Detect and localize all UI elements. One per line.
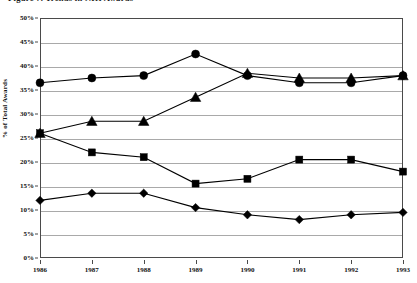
y-tick-mark xyxy=(35,258,38,259)
y-tick-mark xyxy=(35,90,38,91)
y-tick-mark xyxy=(35,234,38,235)
y-tick-label: 35% xyxy=(20,86,34,94)
y-tick-mark xyxy=(35,66,38,67)
y-tick-mark xyxy=(35,162,38,163)
y-tick-label: 10% xyxy=(20,206,34,214)
x-tick-mark xyxy=(299,260,300,264)
triangle-marker xyxy=(190,92,201,101)
circle-marker xyxy=(88,74,96,82)
diamond-marker xyxy=(243,211,251,219)
x-tick-mark xyxy=(196,260,197,264)
square-marker xyxy=(140,154,147,161)
x-tick-label: 1988 xyxy=(137,266,151,274)
y-tick-mark xyxy=(35,18,38,19)
square-marker xyxy=(37,130,44,137)
chart-title: Figure 7. Trends in NIH Awards xyxy=(8,0,133,3)
x-tick-label: 1989 xyxy=(189,266,203,274)
x-tick-label: 1993 xyxy=(396,266,410,274)
x-tick-mark xyxy=(92,260,93,264)
circle-marker xyxy=(36,79,44,87)
y-tick-label: 50% xyxy=(20,14,34,22)
y-tick-label: 5% xyxy=(24,230,35,238)
x-tick-mark xyxy=(403,260,404,264)
diamond-marker xyxy=(347,211,355,219)
y-tick-mark xyxy=(35,186,38,187)
diamond-marker xyxy=(88,189,96,197)
y-tick-label: 0% xyxy=(24,254,35,262)
data-series xyxy=(37,130,407,187)
x-tick-label: 1991 xyxy=(292,266,306,274)
diamond-marker xyxy=(140,189,148,197)
diamond-marker xyxy=(399,208,407,216)
x-tick-mark xyxy=(40,260,41,264)
x-tick-label: 1990 xyxy=(240,266,254,274)
y-tick-mark xyxy=(35,42,38,43)
square-marker xyxy=(244,175,251,182)
x-tick-label: 1987 xyxy=(85,266,99,274)
diamond-marker xyxy=(295,215,303,223)
y-tick-label: 40% xyxy=(20,62,34,70)
x-axis-labels: 19861987198819891990199119921993 xyxy=(40,260,403,278)
x-tick-mark xyxy=(144,260,145,264)
y-tick-label: 25% xyxy=(20,134,34,142)
x-tick-mark xyxy=(351,260,352,264)
square-marker xyxy=(296,156,303,163)
chart-figure: Figure 7. Trends in NIH Awards % of Tota… xyxy=(0,0,417,283)
y-tick-mark xyxy=(35,210,38,211)
y-tick-label: 20% xyxy=(20,158,34,166)
y-tick-label: 45% xyxy=(20,38,34,46)
y-tick-mark xyxy=(35,114,38,115)
x-tick-label: 1986 xyxy=(33,266,47,274)
y-axis-labels: 0%5%10%15%20%25%30%35%40%45%50% xyxy=(0,18,38,258)
square-marker xyxy=(192,180,199,187)
x-tick-mark xyxy=(247,260,248,264)
x-tick-label: 1992 xyxy=(344,266,358,274)
y-tick-label: 30% xyxy=(20,110,34,118)
square-marker xyxy=(88,149,95,156)
series-plot xyxy=(40,18,403,258)
y-tick-label: 15% xyxy=(20,182,34,190)
square-marker xyxy=(348,156,355,163)
triangle-marker xyxy=(242,68,253,77)
diamond-marker xyxy=(191,203,199,211)
circle-marker xyxy=(192,50,200,58)
square-marker xyxy=(400,168,407,175)
circle-marker xyxy=(140,72,148,80)
data-series xyxy=(36,189,407,224)
